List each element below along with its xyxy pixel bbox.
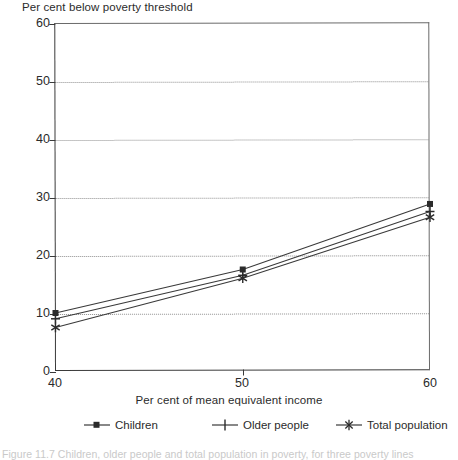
y-tick-0: [50, 372, 56, 373]
chart-legend: Children Older people Total population: [0, 419, 458, 441]
legend-key-plus-icon: [212, 419, 238, 431]
legend-label-total-population: Total population: [367, 419, 448, 431]
gridline-y-10: [56, 313, 429, 315]
x-tick-label-50: 50: [222, 376, 262, 390]
legend-key-star-icon: [336, 419, 362, 431]
y-tick-label-30: 30: [18, 190, 50, 204]
plot-area: [54, 22, 430, 371]
legend-item-total-population[interactable]: Total population: [336, 419, 448, 431]
legend-label-older-people: Older people: [243, 419, 309, 431]
x-tick-label-60: 60: [410, 376, 450, 390]
y-tick-10: [50, 314, 56, 315]
gridline-y-40: [56, 139, 429, 141]
y-tick-label-60: 60: [18, 16, 50, 30]
gridline-y-50: [55, 81, 428, 83]
y-tick-label-10: 10: [18, 306, 50, 320]
legend-key-square-icon: [84, 419, 110, 431]
y-tick-30: [50, 198, 56, 199]
legend-item-children[interactable]: Children: [84, 419, 158, 431]
x-tick-label-40: 40: [35, 376, 75, 390]
y-tick-60: [49, 24, 55, 25]
gridline-y-20: [56, 255, 429, 257]
y-tick-50: [49, 82, 55, 83]
y-tick-label-40: 40: [18, 132, 50, 146]
legend-label-children: Children: [115, 419, 158, 431]
x-axis-title: Per cent of mean equivalent income: [0, 394, 458, 406]
x-tick-50: [243, 370, 244, 376]
chart-title: Per cent below poverty threshold: [22, 1, 193, 13]
y-tick-20: [50, 256, 56, 257]
y-tick-40: [50, 140, 56, 141]
legend-item-older-people[interactable]: Older people: [212, 419, 309, 431]
y-tick-label-20: 20: [18, 248, 50, 262]
y-tick-label-50: 50: [18, 74, 50, 88]
figure-caption: Figure 11.7 Children, older people and t…: [2, 448, 458, 460]
gridline-y-30: [56, 197, 429, 199]
